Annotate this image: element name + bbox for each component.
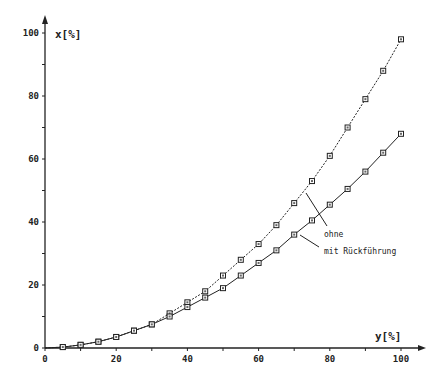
data-point-marker-center	[382, 152, 384, 154]
data-point-marker-center	[329, 155, 331, 157]
data-point-marker-center	[204, 290, 206, 292]
x-tick-label: 80	[324, 354, 335, 364]
annotation-mit-rueckfuehrung: mit Rückführung	[324, 247, 396, 256]
series-line-mit-rueckfuehrung	[45, 134, 401, 348]
data-point-marker-center	[222, 287, 224, 289]
series-line-ohne	[45, 39, 401, 348]
x-tick-label: 0	[42, 354, 47, 364]
data-point-marker-center	[133, 330, 135, 332]
data-point-marker-center	[293, 202, 295, 204]
data-point-marker-center	[364, 98, 366, 100]
data-point-marker-center	[80, 344, 82, 346]
data-point-marker-center	[204, 297, 206, 299]
data-point-marker-center	[151, 323, 153, 325]
data-point-marker-center	[186, 306, 188, 308]
data-point-marker-center	[382, 70, 384, 72]
data-point-marker-center	[400, 38, 402, 40]
data-point-marker-center	[258, 262, 260, 264]
data-point-marker-center	[311, 219, 313, 221]
y-tick-label: 60	[28, 154, 39, 164]
data-point-marker-center	[169, 316, 171, 318]
data-point-marker-center	[240, 275, 242, 277]
annotation-leader-mit-rueckfuehrung	[300, 235, 319, 247]
x-tick-label: 40	[182, 354, 193, 364]
data-point-marker-center	[222, 275, 224, 277]
data-point-marker-center	[62, 346, 64, 348]
y-axis-label: x[%]	[55, 28, 82, 41]
data-point-marker-center	[400, 133, 402, 135]
data-point-marker-center	[97, 341, 99, 343]
y-tick-label: 100	[23, 28, 39, 38]
data-point-marker-center	[258, 243, 260, 245]
data-point-marker-center	[186, 301, 188, 303]
x-axis-label: y[%]	[375, 330, 402, 343]
data-point-marker-center	[311, 180, 313, 182]
y-tick-label: 80	[28, 91, 39, 101]
x-tick-label: 100	[393, 354, 409, 364]
data-point-marker-center	[275, 224, 277, 226]
y-tick-label: 40	[28, 217, 39, 227]
data-point-marker-center	[240, 259, 242, 261]
data-point-marker-center	[275, 249, 277, 251]
y-axis-arrow-icon	[42, 15, 48, 24]
axes	[42, 15, 426, 351]
y-tick-label: 20	[28, 280, 39, 290]
data-point-marker-center	[115, 336, 117, 338]
data-point-marker-center	[329, 204, 331, 206]
annotation-ohne: ohne	[324, 230, 343, 239]
series-group	[45, 37, 404, 350]
labels: 020406080100020406080100x[%]y[%]ohnemit …	[23, 28, 409, 364]
data-point-marker-center	[347, 127, 349, 129]
chart: 020406080100020406080100x[%]y[%]ohnemit …	[0, 0, 435, 383]
x-tick-label: 60	[253, 354, 264, 364]
y-tick-label: 0	[34, 343, 39, 353]
data-point-marker-center	[364, 171, 366, 173]
x-tick-label: 20	[111, 354, 122, 364]
data-point-marker-center	[293, 234, 295, 236]
x-axis-arrow-icon	[418, 345, 426, 351]
data-point-marker-center	[347, 188, 349, 190]
